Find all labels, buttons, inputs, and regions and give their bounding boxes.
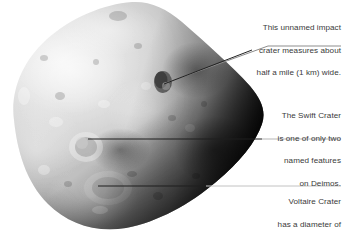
deimos-annotated-figure: This unnamed impact crater measures abou…	[0, 0, 344, 232]
callout-text-line: crater measures about	[249, 45, 341, 56]
callout-text-line: is one of only two	[249, 133, 341, 144]
callout-text-line: half a mile (1 km) wide.	[249, 67, 341, 78]
unnamed-impact-crater-callout: This unnamed impact crater measures abou…	[249, 11, 341, 90]
callout-text-line: The Swift Crater	[249, 110, 341, 121]
callout-text-line: This unnamed impact	[249, 22, 341, 33]
callout-text-line: has a diameter of	[249, 219, 341, 230]
voltaire-crater-callout: Voltaire Crater has a diameter of 1.2 mi…	[249, 185, 341, 232]
callout-text-line: Voltaire Crater	[249, 196, 341, 207]
callout-text-line: named features	[249, 155, 341, 166]
